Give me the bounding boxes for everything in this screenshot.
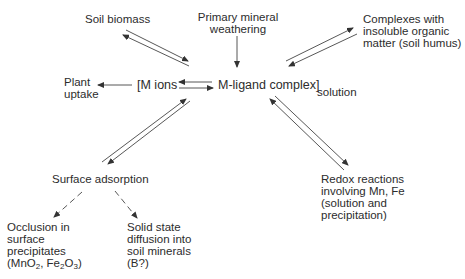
node-soil-biomass: Soil biomass (85, 13, 150, 25)
node-complexes-humus: Complexes with insoluble organic matter … (363, 13, 461, 49)
node-surface-adsorption: Surface adsorption (52, 173, 149, 185)
node-m-ions: [M ions (137, 79, 177, 91)
node-redox-line2: involving Mn, Fe (321, 185, 405, 197)
node-occlusion-line1: Occlusion in (7, 221, 82, 233)
node-plant-uptake-line1: Plant (64, 76, 99, 88)
node-primary-mineral-line1: Primary mineral (196, 11, 280, 23)
arrow-dashed-to-solid-state (115, 191, 137, 218)
node-complexes-line2: insoluble organic (363, 25, 461, 37)
node-primary-mineral-weathering: Primary mineral weathering (196, 11, 280, 35)
node-solid-state-line3: soil minerals (127, 245, 191, 257)
node-m-ligand-complex: M-ligand complex] (218, 79, 319, 91)
node-occlusion: Occlusion in surface precipitates (MnO2,… (7, 221, 82, 269)
node-redox-line3: (solution and (321, 197, 405, 209)
arrow-pool-to-biomass (123, 35, 189, 66)
node-primary-mineral-line2: weathering (196, 23, 280, 35)
node-solid-state-line1: Solid state (127, 221, 191, 233)
node-complexes-line3: matter (soil humus) (363, 37, 461, 49)
arrow-dashed-to-occlusion (54, 192, 82, 217)
node-occlusion-line2: surface (7, 233, 82, 245)
arrow-biomass-to-pool (126, 30, 188, 61)
arrow-redox-to-pool (270, 99, 344, 170)
node-occlusion-line3: precipitates (7, 245, 82, 257)
node-solid-state-diffusion: Solid state diffusion into soil minerals… (127, 221, 191, 269)
node-plant-uptake-line2: uptake (64, 88, 99, 100)
arrow-pool-to-complexes (286, 28, 353, 61)
arrow-adsorption-to-pool (102, 99, 186, 162)
node-redox-line1: Redox reactions (321, 173, 405, 185)
node-redox-line4: precipitation) (321, 209, 405, 221)
arrow-pool-to-adsorption (108, 101, 190, 164)
node-solid-state-line2: diffusion into (127, 233, 191, 245)
node-solid-state-line4: (B?) (127, 257, 191, 269)
arrow-complexes-to-pool (289, 34, 357, 66)
node-plant-uptake: Plant uptake (64, 76, 99, 100)
node-occlusion-line4: (MnO2, Fe2O3) (7, 257, 82, 269)
node-solution-label: solution (317, 86, 357, 98)
node-complexes-line1: Complexes with (363, 13, 461, 25)
arrow-pool-to-redox (275, 96, 348, 165)
node-redox-reactions: Redox reactions involving Mn, Fe (soluti… (321, 173, 405, 221)
